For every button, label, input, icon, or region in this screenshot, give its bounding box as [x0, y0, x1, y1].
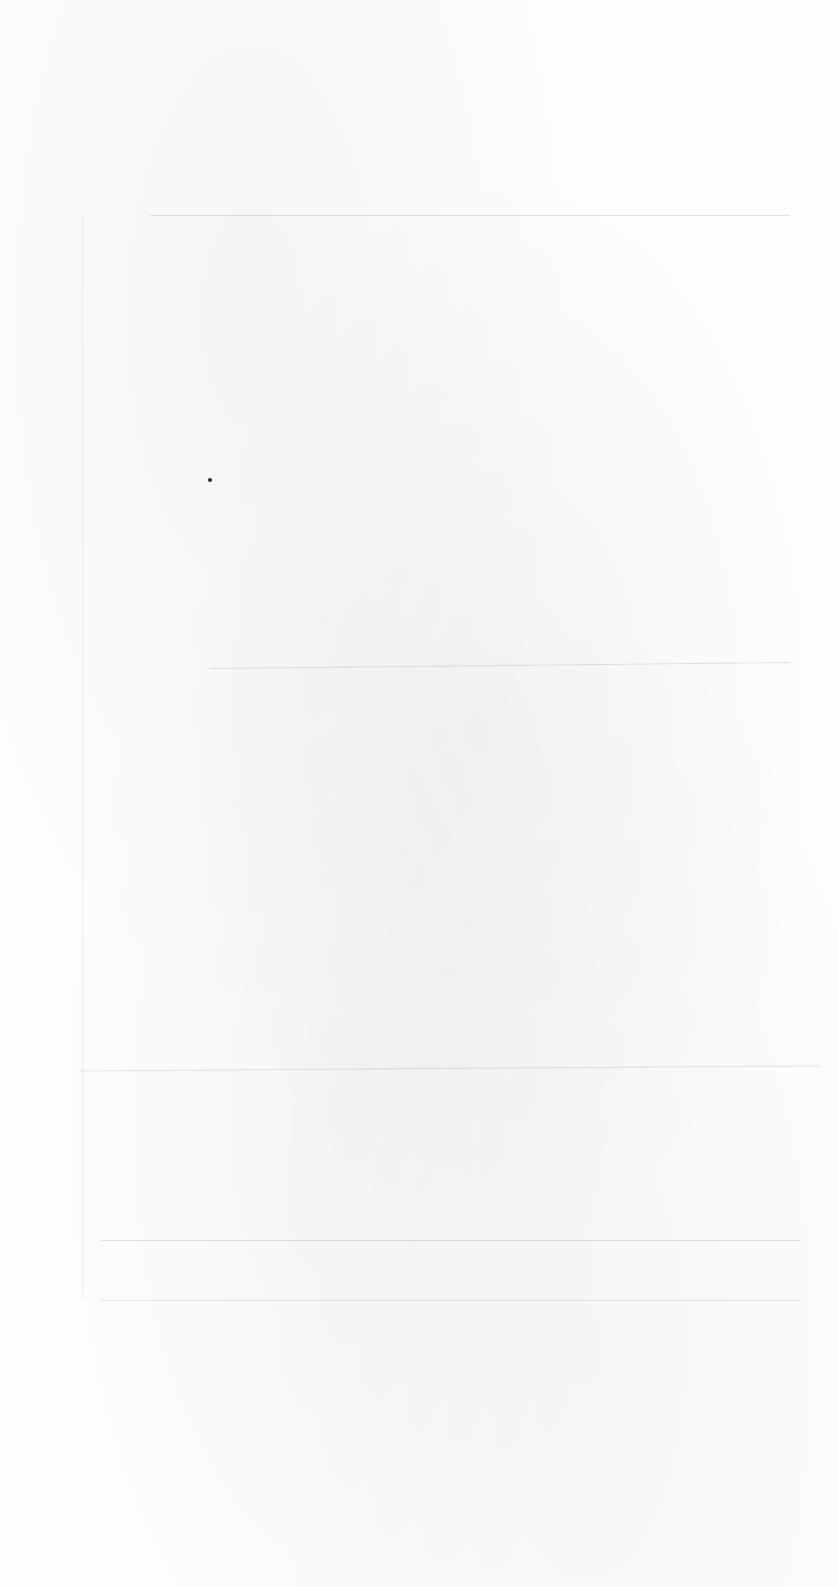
ink-dot	[208, 478, 212, 482]
faint-rule-bottom-1	[100, 1240, 800, 1241]
faint-rule-top	[150, 215, 790, 216]
faint-rule-bottom-2	[100, 1300, 800, 1301]
faint-page-frame	[82, 215, 801, 1300]
